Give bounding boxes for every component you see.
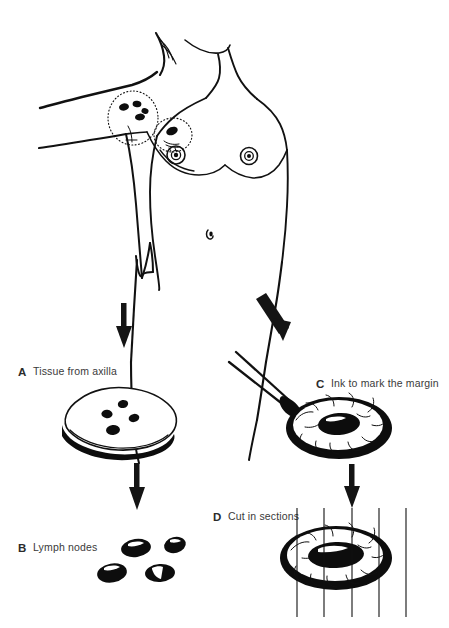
torso-illustration bbox=[39, 33, 288, 463]
brush-handle-upper bbox=[236, 352, 289, 400]
thigh-right bbox=[249, 420, 257, 460]
axilla-node-1 bbox=[118, 102, 129, 111]
lymph-node-3 bbox=[96, 561, 129, 585]
lymph-node-4 bbox=[144, 563, 175, 583]
waist-left-curve bbox=[150, 243, 153, 272]
breast-right-lower bbox=[225, 150, 287, 178]
flank-left-upper bbox=[134, 260, 137, 308]
panel-a-label: Tissue from axilla bbox=[33, 365, 117, 377]
panel-b-letter: B bbox=[18, 542, 26, 554]
panel-a: A Tissue from axilla bbox=[18, 365, 176, 460]
areola-right bbox=[241, 148, 258, 165]
panel-d-label: Cut in sections bbox=[228, 510, 299, 522]
arrow-ink-to-sections bbox=[344, 464, 360, 508]
flank-left-mid bbox=[131, 308, 134, 362]
axilla-node-2 bbox=[132, 100, 142, 108]
shoulder-left-inner bbox=[157, 98, 206, 136]
armpit-connector bbox=[126, 132, 147, 134]
panel-b-label: Lymph nodes bbox=[33, 541, 97, 553]
inked-specimen bbox=[286, 393, 392, 459]
panel-d-letter: D bbox=[213, 511, 221, 523]
flank-right-upper bbox=[275, 262, 282, 310]
shoulder-right bbox=[257, 99, 287, 150]
waist-left-join bbox=[143, 272, 153, 274]
axilla-node-4 bbox=[135, 113, 146, 121]
chin-line bbox=[185, 40, 230, 53]
torso-left-inner bbox=[150, 136, 159, 290]
lymph-node-group bbox=[96, 535, 188, 585]
panel-d: D Cut in sections bbox=[213, 508, 406, 617]
panel-a-letter: A bbox=[18, 366, 26, 378]
tumor-mass bbox=[165, 125, 179, 137]
arrow-body-to-axilla-tissue bbox=[116, 303, 132, 348]
lymph-node-2 bbox=[162, 535, 187, 556]
areola-left bbox=[167, 146, 185, 164]
lymph-node-1 bbox=[120, 537, 152, 559]
torso-left-outer bbox=[126, 134, 142, 278]
torso-right-inner bbox=[282, 150, 288, 262]
panel-c-label: Ink to mark the margin bbox=[331, 377, 439, 389]
neck-left bbox=[206, 54, 220, 98]
brush-handle-lower bbox=[229, 362, 285, 406]
axilla-tissue-specimen bbox=[62, 387, 176, 460]
breast-specimen-diagram: A Tissue from axilla B Lymph nodes bbox=[0, 0, 449, 628]
tumor-hatch-1 bbox=[164, 141, 179, 144]
diagram-canvas: A Tissue from axilla B Lymph nodes bbox=[0, 0, 449, 628]
panel-c-letter: C bbox=[316, 378, 324, 390]
arrow-body-to-ink-specimen bbox=[256, 293, 291, 341]
panel-b: B Lymph nodes bbox=[18, 535, 188, 585]
axilla-node-3 bbox=[141, 107, 150, 115]
panel-c: C Ink to mark the margin bbox=[229, 352, 439, 459]
neck-right bbox=[228, 48, 257, 99]
navel bbox=[207, 230, 214, 239]
arrow-tissue-to-lymph-nodes bbox=[129, 463, 145, 510]
arm-lower-edge bbox=[39, 134, 126, 148]
